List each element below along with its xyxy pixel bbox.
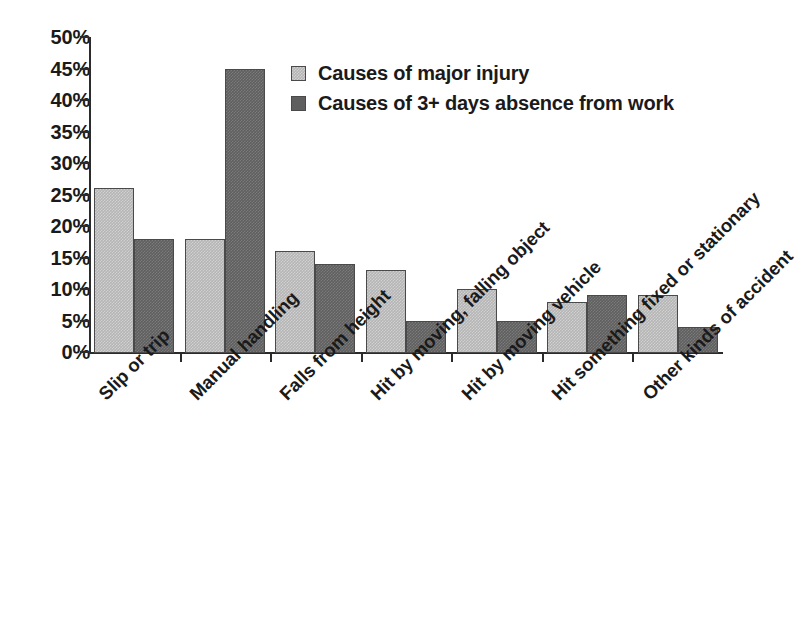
x-tick-mark — [542, 354, 544, 362]
y-tick-mark — [80, 225, 89, 227]
x-tick-mark — [270, 354, 272, 362]
legend-swatch-icon — [291, 96, 306, 111]
y-tick-mark — [80, 194, 89, 196]
x-tick-mark — [180, 354, 182, 362]
legend-item: Causes of major injury — [291, 58, 674, 88]
legend-label: Causes of major injury — [318, 62, 529, 85]
y-tick-mark — [80, 36, 89, 38]
y-tick-mark — [80, 68, 89, 70]
chart-legend: Causes of major injuryCauses of 3+ days … — [291, 58, 674, 118]
y-tick-mark — [80, 351, 89, 353]
y-axis-line — [89, 37, 91, 354]
bar — [94, 188, 134, 353]
y-tick-mark — [80, 162, 89, 164]
y-tick-mark — [80, 288, 89, 290]
x-tick-mark — [632, 354, 634, 362]
bar — [185, 239, 225, 353]
y-tick-mark — [80, 257, 89, 259]
legend-label: Causes of 3+ days absence from work — [318, 92, 674, 115]
y-axis-labels: 50%45%40%35%30%25%20%15%10%5%0% — [0, 0, 90, 643]
y-tick-mark — [80, 99, 89, 101]
y-tick-mark — [80, 131, 89, 133]
bar — [225, 69, 265, 354]
x-tick-mark — [361, 354, 363, 362]
y-tick-mark — [80, 320, 89, 322]
legend-swatch-icon — [291, 66, 306, 81]
x-tick-mark — [451, 354, 453, 362]
legend-item: Causes of 3+ days absence from work — [291, 88, 674, 118]
